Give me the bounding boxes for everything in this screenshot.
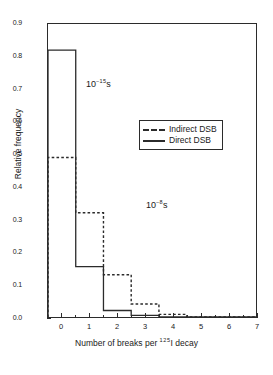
x-axis-tick-mark — [89, 313, 90, 318]
series-step-dashed — [48, 157, 256, 317]
legend: Indirect DSB Direct DSB — [139, 120, 223, 150]
y-axis-tick-mark — [47, 318, 51, 319]
annotation-unit: s — [106, 79, 111, 89]
y-axis-tick-label: 0.6 — [0, 117, 22, 124]
series-step-solid — [48, 50, 256, 317]
x-axis-label: Number of breaks per 125I decay — [0, 337, 273, 348]
x-axis-tick-label: 6 — [219, 322, 239, 331]
legend-label: Indirect DSB — [169, 125, 217, 134]
y-axis-tick-label: 0.1 — [0, 281, 22, 288]
x-axis-tick-label: 1 — [79, 322, 99, 331]
annotation-exponent: −15 — [96, 78, 106, 84]
x-axis-tick-label: 2 — [107, 322, 127, 331]
x-axis-tick-mark — [117, 313, 118, 318]
x-axis-minor-tick-mark — [243, 315, 244, 318]
solid-line-icon — [143, 137, 165, 145]
dashed-line-icon — [143, 126, 165, 134]
histogram-canvas — [48, 24, 256, 317]
x-axis-tick-label: 5 — [191, 322, 211, 331]
x-axis-tick-mark — [173, 313, 174, 318]
x-axis-tick-mark — [61, 313, 62, 318]
legend-item-direct-dsb: Direct DSB — [143, 135, 217, 146]
annotation-exponent: −8 — [156, 199, 163, 205]
x-axis-minor-tick-mark — [103, 315, 104, 318]
y-axis-tick-label: 0.4 — [0, 183, 22, 190]
y-axis-label: Relative frequency — [13, 74, 23, 214]
annotation-indirect: 10−8s — [146, 199, 167, 210]
x-axis-tick-label: 3 — [135, 322, 155, 331]
annotation-base: 10 — [146, 200, 156, 210]
x-axis-tick-mark — [257, 313, 258, 318]
x-axis-tick-mark — [145, 313, 146, 318]
y-axis-tick-label: 0.3 — [0, 216, 22, 223]
annotation-direct: 10−15s — [86, 78, 111, 89]
plot-area — [47, 23, 257, 318]
annotation-unit: s — [163, 200, 168, 210]
x-axis-label-prefix: Number of breaks per — [75, 338, 160, 348]
x-axis-minor-tick-mark — [215, 315, 216, 318]
y-axis-tick-label: 0.5 — [0, 150, 22, 157]
y-axis-tick-label: 0.8 — [0, 52, 22, 59]
legend-item-indirect-dsb: Indirect DSB — [143, 124, 217, 135]
x-axis-minor-tick-mark — [159, 315, 160, 318]
x-axis-tick-mark — [201, 313, 202, 318]
figure: Relative frequency 0.00.10.20.30.40.50.6… — [0, 0, 273, 375]
legend-label: Direct DSB — [169, 136, 211, 145]
x-axis-minor-tick-mark — [75, 315, 76, 318]
y-axis-tick-label: 0.7 — [0, 85, 22, 92]
y-axis-tick-label: 0.9 — [0, 19, 22, 26]
x-axis-minor-tick-mark — [47, 315, 48, 318]
x-axis-minor-tick-mark — [187, 315, 188, 318]
x-axis-label-suffix: I decay — [171, 338, 198, 348]
x-axis-minor-tick-mark — [131, 315, 132, 318]
x-axis-tick-mark — [229, 313, 230, 318]
annotation-base: 10 — [86, 79, 96, 89]
x-axis-tick-label: 0 — [51, 322, 71, 331]
y-axis-tick-label: 0.2 — [0, 248, 22, 255]
x-axis-tick-label: 7 — [247, 322, 267, 331]
y-axis-tick-label: 0.0 — [0, 314, 22, 321]
x-axis-tick-label: 4 — [163, 322, 183, 331]
isotope-mass-superscript: 125 — [160, 337, 171, 343]
